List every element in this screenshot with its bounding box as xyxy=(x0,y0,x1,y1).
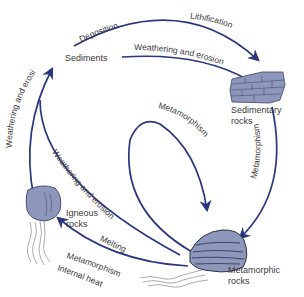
igneous-rock-icon xyxy=(26,186,61,221)
igneous-label-1: Igneous xyxy=(66,208,99,218)
weathering-sed-arrow xyxy=(122,56,248,80)
weathering-igneous-arrow xyxy=(30,69,52,198)
metamorphic-label-1: Metamorphic xyxy=(228,265,281,275)
sedimentary-label-1: Sedimentary xyxy=(231,105,282,115)
weathering-sed-label: Weathering and erosion xyxy=(134,42,225,67)
rock-cycle-diagram: Sediments Sedimentary rocks Igneous rock… xyxy=(0,0,304,297)
metamorphic-label-2: rocks xyxy=(228,276,250,286)
igneous-label-2: rocks xyxy=(66,219,88,229)
sediments-label: Sediments xyxy=(65,53,108,63)
deposition-label: Deposition xyxy=(78,20,120,44)
metamorphism-sed-label: Metamorphism xyxy=(248,123,262,179)
metamorphism-loop-label: Metamorphism xyxy=(158,100,211,138)
sedimentary-rock-icon xyxy=(230,72,285,103)
sedimentary-label-2: rocks xyxy=(231,116,253,126)
lithification-label: Lithification xyxy=(190,11,235,31)
